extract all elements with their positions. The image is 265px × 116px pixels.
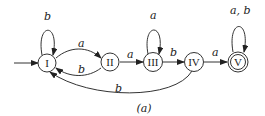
state-IV: IV <box>185 53 204 72</box>
edge-label-III-IV: b <box>170 46 177 59</box>
edge-V-V <box>232 27 245 53</box>
edge-label-III-III: a <box>150 9 157 22</box>
edge-III-III <box>147 30 160 54</box>
edge-label-IV-I: b <box>115 82 122 95</box>
edge-label-I-I: b <box>44 10 51 23</box>
state-label-V: V <box>234 56 242 68</box>
state-label-IV: IV <box>188 56 200 68</box>
state-V-accepting: V <box>228 52 248 72</box>
edge-I-II <box>56 49 101 58</box>
state-label-III: III <box>148 56 159 68</box>
state-I: I <box>38 54 56 72</box>
state-label-I: I <box>45 57 49 69</box>
state-II: II <box>101 53 119 71</box>
edge-label-II-I: b <box>78 63 85 76</box>
state-III: III <box>144 53 163 72</box>
edge-label-V-V: a, b <box>230 4 251 17</box>
automaton-diagram: b a b a a b a b a, b I II III IV V (a) <box>0 0 265 116</box>
edge-label-I-II: a <box>78 37 85 50</box>
edge-label-II-III: a <box>127 48 134 61</box>
diagram-caption: (a) <box>136 102 151 115</box>
edge-label-IV-V: a <box>212 46 219 59</box>
state-label-II: II <box>106 56 114 68</box>
edge-I-I <box>41 30 54 55</box>
